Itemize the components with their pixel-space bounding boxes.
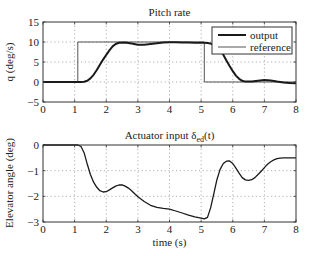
x-tick-label: 0: [40, 103, 46, 115]
figure: Pitch rate 012345678−5051015 q (deg/s) o…: [0, 0, 313, 256]
x-tick-label: 1: [72, 223, 78, 235]
y-tick-label: 0: [34, 76, 40, 88]
actuator-input-ylabel: Elevator angle (deg): [3, 138, 16, 228]
x-tick-label: 4: [167, 223, 173, 235]
x-tick-label: 4: [167, 103, 173, 115]
x-tick-label: 0: [40, 223, 46, 235]
x-tick-label: 8: [293, 103, 299, 115]
x-tick-label: 7: [262, 103, 268, 115]
x-tick-label: 3: [135, 103, 141, 115]
pitch-rate-ylabel: q (deg/s): [3, 42, 16, 81]
x-tick-label: 7: [262, 223, 268, 235]
series-elevator: [43, 145, 296, 219]
legend-reference-label: reference: [250, 41, 291, 53]
actuator-input-plot: Actuator input δed(t) 012345678−3−2−10 E…: [3, 129, 299, 249]
y-tick-label: −3: [27, 216, 39, 228]
actuator-input-series: [43, 145, 296, 219]
x-tick-label: 6: [230, 103, 236, 115]
x-tick-label: 1: [72, 103, 78, 115]
y-tick-label: 15: [28, 16, 40, 28]
y-tick-label: −1: [27, 165, 39, 177]
x-tick-label: 3: [135, 223, 141, 235]
actuator-input-title: Actuator input δed(t): [125, 129, 215, 144]
x-tick-label: 2: [104, 223, 110, 235]
actuator-input-ticks: 012345678−3−2−10: [27, 139, 299, 235]
y-tick-label: 5: [34, 56, 40, 68]
y-tick-label: −2: [27, 190, 39, 202]
x-tick-label: 5: [198, 103, 204, 115]
y-tick-label: 0: [34, 139, 40, 151]
time-xlabel: time (s): [153, 236, 187, 249]
legend: output reference: [212, 27, 292, 54]
y-tick-label: −5: [27, 96, 39, 108]
legend-output-label: output: [250, 29, 278, 41]
y-tick-label: 10: [28, 36, 40, 48]
x-tick-label: 6: [230, 223, 236, 235]
x-tick-label: 8: [293, 223, 299, 235]
actuator-input-grid: [43, 145, 296, 222]
pitch-rate-plot: Pitch rate 012345678−5051015 q (deg/s) o…: [3, 6, 299, 115]
x-tick-label: 2: [104, 103, 110, 115]
pitch-rate-title: Pitch rate: [149, 6, 191, 18]
x-tick-label: 5: [198, 223, 204, 235]
